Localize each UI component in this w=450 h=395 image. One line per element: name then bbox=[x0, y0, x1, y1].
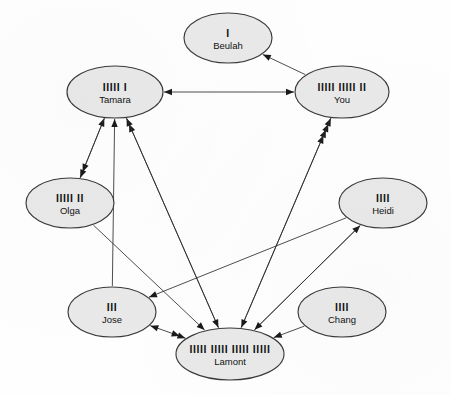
tally-marks-olga: IIIII II bbox=[56, 192, 84, 204]
tally-marks-you: IIIII IIIII II bbox=[317, 81, 366, 93]
edge-jose-to-lamont bbox=[150, 325, 185, 338]
tally-marks-tamara: IIIII I bbox=[103, 81, 128, 93]
node-label-heidi: Heidi bbox=[372, 205, 394, 216]
edge-tamara-to-you bbox=[164, 89, 294, 95]
node-label-beulah: Beulah bbox=[213, 40, 243, 51]
tally-marks-lamont: IIIII IIIII IIIII IIIII bbox=[190, 343, 271, 355]
node-lamont[interactable]: IIIII IIIII IIIII IIIIILamont bbox=[176, 328, 284, 380]
node-heidi[interactable]: IIIIHeidi bbox=[339, 178, 427, 228]
node-label-you: You bbox=[334, 94, 350, 105]
node-tamara[interactable]: IIIII ITamara bbox=[67, 66, 163, 118]
sociogram-graph: IBeulahIIIII ITamaraIIIII IIIII IIYouIII… bbox=[0, 0, 450, 395]
node-you[interactable]: IIIII IIIII IIYou bbox=[295, 66, 389, 118]
edge-tamara-to-olga bbox=[80, 118, 104, 177]
node-label-chang: Chang bbox=[328, 314, 356, 325]
node-jose[interactable]: IIIJose bbox=[68, 287, 156, 337]
sociogram-canvas: IBeulahIIIII ITamaraIIIII IIIII IIYouIII… bbox=[0, 0, 450, 395]
tally-marks-chang: IIII bbox=[335, 301, 349, 313]
edge-chang-to-lamont bbox=[274, 326, 305, 338]
node-olga[interactable]: IIIII IIOlga bbox=[26, 178, 114, 228]
tally-marks-heidi: IIII bbox=[376, 192, 390, 204]
node-chang[interactable]: IIIIChang bbox=[298, 287, 386, 337]
node-beulah[interactable]: IBeulah bbox=[184, 13, 272, 63]
node-label-lamont: Lamont bbox=[214, 356, 246, 367]
tally-marks-beulah: I bbox=[226, 27, 230, 39]
tally-marks-jose: III bbox=[107, 301, 118, 313]
edge-you-to-beulah bbox=[263, 54, 305, 74]
node-label-olga: Olga bbox=[60, 205, 81, 216]
node-layer: IBeulahIIIII ITamaraIIIII IIIII IIYouIII… bbox=[26, 13, 427, 380]
node-label-tamara: Tamara bbox=[99, 94, 131, 105]
edge-heidi-to-jose bbox=[149, 218, 346, 297]
node-label-jose: Jose bbox=[102, 314, 122, 325]
